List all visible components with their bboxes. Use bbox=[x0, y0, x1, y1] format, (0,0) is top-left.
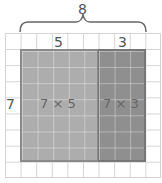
segment-label-left: 5 bbox=[54, 35, 63, 49]
segment-label-right: 3 bbox=[118, 35, 127, 49]
total-width-label: 8 bbox=[78, 2, 87, 16]
height-label: 7 bbox=[6, 97, 15, 111]
region-label-left: 7 × 5 bbox=[40, 97, 76, 111]
region-label-right: 7 × 3 bbox=[103, 97, 139, 111]
